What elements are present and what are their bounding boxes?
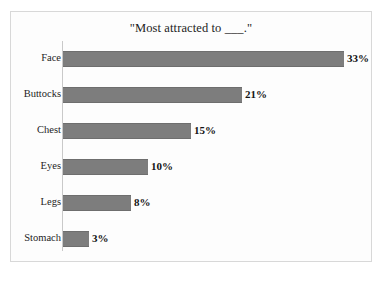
bar-buttocks[interactable]: [63, 87, 242, 103]
bar-row: Eyes 10%: [11, 159, 371, 175]
bar-category-label: Buttocks: [0, 86, 61, 102]
bar-value-label: 10%: [151, 158, 173, 174]
bar-row: Buttocks 21%: [11, 87, 371, 103]
bar-legs[interactable]: [63, 195, 131, 211]
bar-category-label: Legs: [0, 194, 61, 210]
bar-row: Stomach 3%: [11, 231, 371, 247]
plot-area: Face 33% Buttocks 21% Chest 15% Eyes 10%…: [11, 12, 371, 261]
bar-stomach[interactable]: [63, 231, 89, 247]
bar-category-label: Chest: [0, 122, 61, 138]
bar-row: Chest 15%: [11, 123, 371, 139]
bar-eyes[interactable]: [63, 159, 148, 175]
bar-value-label: 8%: [134, 194, 151, 210]
bar-category-label: Face: [0, 50, 61, 66]
value-axis-line: [62, 41, 63, 251]
bar-value-label: 3%: [92, 230, 109, 246]
bar-chest[interactable]: [63, 123, 191, 139]
bar-value-label: 15%: [194, 122, 216, 138]
bar-value-label: 33%: [347, 50, 369, 66]
bar-face[interactable]: [63, 51, 344, 67]
bar-row: Face 33%: [11, 51, 371, 67]
bar-row: Legs 8%: [11, 195, 371, 211]
chart-figure: "Most attracted to ___." Face 33% Buttoc…: [10, 11, 372, 262]
bar-category-label: Eyes: [0, 158, 61, 174]
bar-category-label: Stomach: [0, 230, 61, 246]
bar-value-label: 21%: [245, 86, 267, 102]
